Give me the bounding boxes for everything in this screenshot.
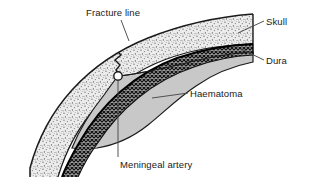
extradural-haematoma-diagram: Fracture line Skull Dura Haematoma Menin…: [0, 0, 309, 177]
meningeal-artery-circle: [114, 72, 122, 80]
label-haematoma: Haematoma: [190, 88, 243, 99]
label-fracture-line: Fracture line: [86, 7, 140, 18]
leader-fracture-line: [121, 20, 129, 41]
label-dura: Dura: [266, 55, 287, 66]
diagram-canvas: [0, 0, 309, 177]
label-skull: Skull: [266, 16, 287, 27]
label-meningeal-artery: Meningeal artery: [120, 159, 192, 170]
